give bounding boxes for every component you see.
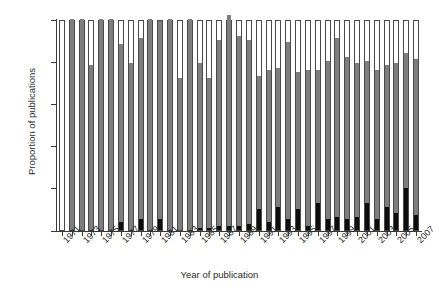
bar-segment-middle	[375, 70, 379, 220]
bar-1974	[88, 20, 94, 231]
bar-segment-middle	[178, 78, 182, 230]
bar-2006	[403, 20, 409, 231]
x-axis-title: Year of publication	[0, 269, 439, 280]
bar-2003	[374, 20, 380, 231]
x-tick-1984	[190, 232, 191, 236]
bar-1994	[285, 20, 291, 231]
x-tick-1978	[131, 232, 132, 236]
bar-segment-middle	[99, 19, 103, 230]
y-tick-mark	[51, 62, 56, 63]
bar-1975	[98, 20, 104, 231]
bar-segment-middle	[198, 63, 202, 228]
bar-segment-lower	[296, 209, 300, 230]
bar-segment-middle	[158, 21, 162, 219]
bar-1978	[128, 20, 134, 231]
bar-1999	[334, 20, 340, 231]
x-tick-1980	[150, 232, 151, 236]
y-tick-mark	[51, 146, 56, 147]
bar-segment-middle	[326, 61, 330, 219]
bar-segment-middle	[267, 70, 271, 222]
bar-segment-middle	[257, 76, 261, 209]
bar-1996	[305, 20, 311, 231]
bar-segment-middle	[129, 63, 133, 230]
bar-segment-middle	[335, 38, 339, 217]
bar-segment-middle	[414, 59, 418, 215]
bar-segment-lower	[355, 217, 359, 230]
bar-segment-middle	[296, 72, 300, 209]
x-tick-1998	[328, 232, 329, 236]
bar-segment-middle	[276, 68, 280, 207]
bar-segment-middle	[365, 61, 369, 202]
bar-1987	[216, 20, 222, 231]
bar-1980	[147, 20, 153, 231]
bar-1998	[325, 20, 331, 231]
bar-segment-middle	[345, 57, 349, 219]
bar-segment-lower	[316, 203, 320, 230]
bar-1981	[157, 20, 163, 231]
bar-segment-middle	[70, 19, 74, 230]
x-tick-1992	[269, 232, 270, 236]
x-tick-2002	[367, 232, 368, 236]
x-tick-2000	[347, 232, 348, 236]
bar-segment-lower	[414, 215, 418, 230]
y-tick-mark	[51, 20, 56, 21]
x-tick-2006	[406, 232, 407, 236]
bar-2001	[354, 20, 360, 231]
bar-segment-lower	[276, 207, 280, 230]
bar-1988	[226, 20, 232, 231]
bar-segment-middle	[394, 63, 398, 213]
bar-1989	[236, 20, 242, 231]
y-tick-mark	[51, 104, 56, 105]
y-tick-mark	[51, 231, 56, 232]
bar-1991	[256, 20, 262, 231]
x-tick-1986	[209, 232, 210, 236]
bar-1986	[206, 20, 212, 231]
bar-segment-middle	[89, 65, 93, 230]
y-axis-title: Proportion of publications	[26, 37, 37, 207]
bar-1992	[266, 20, 272, 231]
bar-segment-lower	[394, 213, 398, 230]
x-tick-1982	[170, 232, 171, 236]
y-tick-mark	[51, 188, 56, 189]
bar-2005	[393, 20, 399, 231]
bar-segment-middle	[139, 38, 143, 219]
x-tick-2004	[387, 232, 388, 236]
bar-1993	[275, 20, 281, 231]
bar-1973	[79, 20, 85, 231]
bar-1990	[246, 20, 252, 231]
bar-segment-middle	[306, 70, 310, 226]
bar-segment-middle	[237, 36, 241, 226]
bar-segment-middle	[355, 63, 359, 217]
bar-1985	[197, 20, 203, 231]
bar-segment-lower	[257, 209, 261, 230]
x-tick-1974	[91, 232, 92, 236]
x-tick-1994	[288, 232, 289, 236]
bar-1979	[138, 20, 144, 231]
bar-2002	[364, 20, 370, 231]
bar-segment-middle	[404, 53, 408, 188]
bar-2000	[344, 20, 350, 231]
stacked-bar-chart: Proportion of publications Year of publi…	[0, 0, 439, 292]
bar-segment-middle	[148, 19, 152, 230]
bar-1983	[177, 20, 183, 231]
bar-segment-middle	[316, 70, 320, 203]
bar-2004	[384, 20, 390, 231]
plot-area	[57, 20, 421, 231]
bar-1976	[108, 20, 114, 231]
x-tick-1972	[72, 232, 73, 236]
bar-segment-middle	[168, 19, 172, 230]
bar-segment-middle	[119, 44, 123, 221]
bar-1971	[59, 20, 65, 231]
bar-1997	[315, 20, 321, 231]
bar-1977	[118, 20, 124, 231]
bar-segment-middle	[80, 19, 84, 230]
bar-1995	[295, 20, 301, 231]
x-tick-1988	[229, 232, 230, 236]
bar-1972	[69, 20, 75, 231]
x-tick-1976	[111, 232, 112, 236]
bar-1982	[167, 20, 173, 231]
bar-segment-middle	[109, 19, 113, 230]
bar-segment-middle	[227, 15, 231, 226]
bar-segment-middle	[207, 78, 211, 228]
bar-segment-middle	[217, 40, 221, 226]
